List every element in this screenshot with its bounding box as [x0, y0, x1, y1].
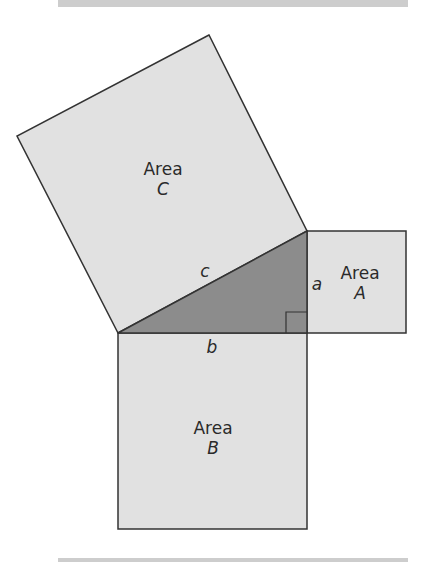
side-b-label: b [207, 337, 218, 357]
side-c-label: c [200, 261, 209, 281]
area-b-label: Area B [193, 418, 232, 458]
bottom-rule [58, 558, 408, 562]
area-c-label: Area C [143, 159, 182, 199]
area-c-letter: C [143, 179, 182, 199]
area-b-letter: B [193, 438, 232, 458]
area-a-label: Area A [340, 263, 379, 303]
area-a-word: Area [340, 263, 379, 283]
area-a-letter: A [340, 283, 379, 303]
area-b-word: Area [193, 418, 232, 438]
side-a-label: a [312, 274, 322, 294]
area-c-word: Area [143, 159, 182, 179]
